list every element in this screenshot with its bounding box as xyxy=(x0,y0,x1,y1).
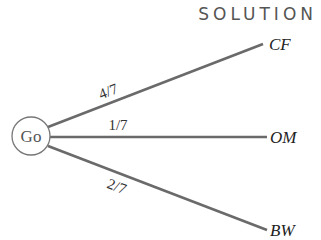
root-node-label: Go xyxy=(21,127,42,146)
branch-line-bw xyxy=(48,146,267,230)
branch-probability-bw: 2/7 xyxy=(105,175,129,197)
branch-probability-cf: 4/7 xyxy=(96,80,120,102)
leaf-label-cf: CF xyxy=(269,35,291,54)
branch-probability-om: 1/7 xyxy=(108,117,128,133)
leaf-label-om: OM xyxy=(270,128,297,147)
branch-line-cf xyxy=(48,44,263,127)
leaf-label-bw: BW xyxy=(270,221,296,240)
probability-tree: Go 4/7 1/7 2/7 CF OM BW xyxy=(0,0,321,240)
